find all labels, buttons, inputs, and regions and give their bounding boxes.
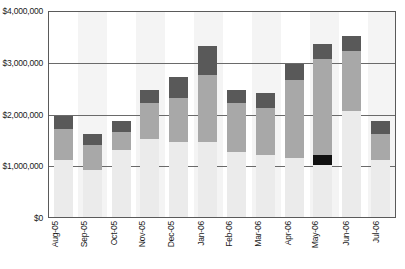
x-axis-column: Feb-06 <box>222 219 251 265</box>
bar-column <box>135 12 164 217</box>
x-axis-column: Jan-06 <box>193 219 222 265</box>
stacked-bar <box>256 93 275 217</box>
x-axis-tick-label: Oct-05 <box>108 221 118 245</box>
bar-segment-segment-3-medium <box>112 132 131 150</box>
bar-column <box>49 12 78 217</box>
x-axis-tick-label: Jun-06 <box>340 221 350 246</box>
stacked-bar <box>54 116 73 217</box>
x-axis-column: Sep-05 <box>77 219 106 265</box>
bar-segment-segment-4-dark <box>198 46 217 74</box>
x-axis-tick-label: Nov-05 <box>136 221 146 247</box>
bar-segment-segment-3-medium <box>83 145 102 171</box>
bar-column <box>280 12 309 217</box>
bar-segment-segment-4-dark <box>313 44 332 60</box>
x-axis-tick-label: Aug-05 <box>49 221 59 247</box>
y-axis-tick-label: $0 <box>34 213 43 223</box>
y-axis-tick-label: $4,000,000 <box>2 6 43 16</box>
bar-segment-segment-3-medium <box>54 129 73 160</box>
bar-segment-segment-4-dark <box>83 134 102 144</box>
x-axis-column: Dec-05 <box>164 219 193 265</box>
stacked-bar <box>313 44 332 217</box>
bar-column <box>366 12 395 217</box>
bar-segment-segment-4-dark <box>256 93 275 109</box>
bar-segment-segment-1-light <box>112 150 131 217</box>
bar-segment-segment-3-medium <box>313 59 332 155</box>
bar-segment-segment-4-dark <box>140 90 159 103</box>
x-axis-tick-label: Mar-06 <box>253 221 263 247</box>
bar-segment-segment-1-light <box>83 170 102 217</box>
bar-column <box>308 12 337 217</box>
x-axis-column: Aug-05 <box>48 219 77 265</box>
stacked-bar <box>227 90 246 217</box>
plot-area <box>48 11 396 218</box>
bar-column <box>337 12 366 217</box>
x-axis-column: Nov-05 <box>135 219 164 265</box>
bar-segment-segment-1-light <box>342 111 361 217</box>
stacked-bar <box>371 121 390 217</box>
bar-segment-segment-1-light <box>285 158 304 218</box>
bar-segment-segment-4-dark <box>169 77 188 98</box>
bar-column <box>164 12 193 217</box>
bar-segment-segment-3-medium <box>227 103 246 152</box>
y-axis-tick-label: $2,000,000 <box>2 110 43 120</box>
x-axis-column: Jun-06 <box>338 219 367 265</box>
bar-segment-segment-3-medium <box>198 75 217 142</box>
y-axis: $0$1,000,000$2,000,000$3,000,000$4,000,0… <box>0 0 47 230</box>
bar-segment-segment-3-medium <box>285 80 304 158</box>
bar-segment-segment-1-light <box>256 155 275 217</box>
bar-segment-segment-3-medium <box>169 98 188 142</box>
stacked-bar <box>169 77 188 217</box>
x-axis-tick-label: Sep-05 <box>78 221 88 247</box>
x-axis-tick-label: Apr-06 <box>282 221 292 245</box>
stacked-bar <box>83 134 102 217</box>
bar-segment-segment-1-light <box>313 165 332 217</box>
x-axis-column: Mar-06 <box>251 219 280 265</box>
y-axis-tick-label: $1,000,000 <box>2 161 43 171</box>
bar-segment-segment-3-medium <box>371 134 390 160</box>
stacked-bar <box>112 121 131 217</box>
bar-segment-segment-1-light <box>169 142 188 217</box>
bar-segment-segment-1-light <box>198 142 217 217</box>
stacked-bar <box>198 46 217 217</box>
x-axis: Aug-05Sep-05Oct-05Nov-05Dec-05Jan-06Feb-… <box>48 219 396 265</box>
bar-column <box>107 12 136 217</box>
bar-segment-segment-1-light <box>140 139 159 217</box>
x-axis-column: Jul-06 <box>367 219 396 265</box>
bar-segment-segment-4-dark <box>54 116 73 129</box>
bar-segment-segment-4-dark <box>285 64 304 80</box>
bar-segment-segment-4-dark <box>227 90 246 103</box>
bar-column <box>251 12 280 217</box>
bar-segment-segment-4-dark <box>342 36 361 52</box>
x-axis-tick-label: Feb-06 <box>224 221 234 247</box>
x-axis-tick-label: Jul-06 <box>371 221 381 243</box>
stacked-bar <box>342 36 361 217</box>
bar-segment-segment-2-black <box>313 155 332 165</box>
bar-column <box>193 12 222 217</box>
bar-column <box>222 12 251 217</box>
figure-caption <box>6 261 386 269</box>
bar-segment-segment-4-dark <box>112 121 131 131</box>
y-axis-tick-label: $3,000,000 <box>2 58 43 68</box>
bar-segment-segment-1-light <box>54 160 73 217</box>
stacked-bar <box>140 90 159 217</box>
x-axis-tick-label: Dec-05 <box>165 221 175 247</box>
bar-segment-segment-4-dark <box>371 121 390 134</box>
x-axis-column: Oct-05 <box>106 219 135 265</box>
stacked-bar-chart: $0$1,000,000$2,000,000$3,000,000$4,000,0… <box>0 0 405 269</box>
x-axis-tick-label: May-06 <box>310 221 320 248</box>
bar-column <box>78 12 107 217</box>
x-axis-column: May-06 <box>309 219 338 265</box>
bar-segment-segment-3-medium <box>342 51 361 111</box>
x-axis-column: Apr-06 <box>280 219 309 265</box>
bar-segment-segment-3-medium <box>140 103 159 139</box>
bar-group <box>49 12 395 217</box>
bar-segment-segment-3-medium <box>256 108 275 155</box>
bar-segment-segment-1-light <box>227 152 246 217</box>
bar-segment-segment-1-light <box>371 160 390 217</box>
stacked-bar <box>285 64 304 217</box>
x-axis-tick-label: Jan-06 <box>195 221 205 246</box>
